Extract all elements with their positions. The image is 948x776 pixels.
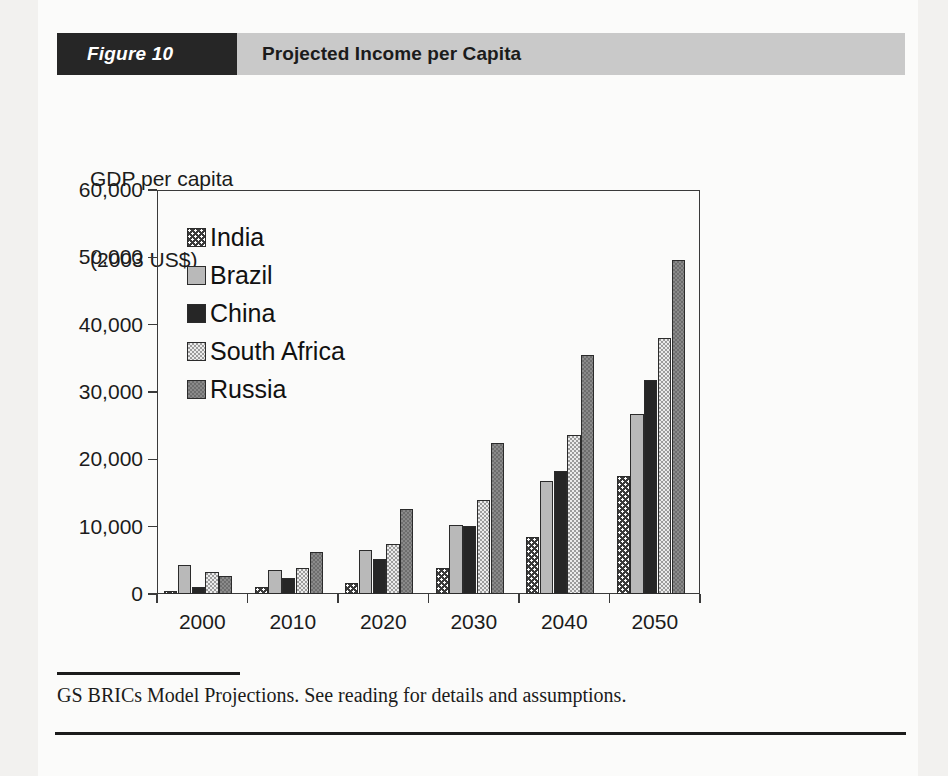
legend-item-southafrica: South Africa bbox=[187, 332, 345, 370]
legend-item-china: China bbox=[187, 294, 345, 332]
x-axis-tick-label: 2020 bbox=[360, 610, 407, 634]
x-axis-tick-mark bbox=[518, 594, 520, 603]
bar-india-2030 bbox=[436, 568, 449, 594]
x-axis-tick-label: 2010 bbox=[269, 610, 316, 634]
bar-brazil-2010 bbox=[268, 570, 281, 594]
bar-southafrica-2020 bbox=[386, 544, 399, 595]
legend-label: South Africa bbox=[210, 339, 345, 364]
legend-item-brazil: Brazil bbox=[187, 256, 345, 294]
y-axis-tick-mark bbox=[148, 189, 157, 191]
bar-russia-2030 bbox=[491, 443, 504, 595]
y-axis-tick-mark bbox=[148, 257, 157, 259]
legend-swatch-china-icon bbox=[187, 304, 206, 323]
legend-swatch-brazil-icon bbox=[187, 266, 206, 285]
bar-india-2040 bbox=[526, 537, 539, 594]
figure-header-band: Figure 10 Projected Income per Capita bbox=[57, 33, 905, 75]
y-axis-tick-mark bbox=[148, 526, 157, 528]
y-axis-tick-label: 20,000 bbox=[79, 447, 143, 471]
source-rule bbox=[57, 672, 240, 675]
x-axis-tick-label: 2050 bbox=[631, 610, 678, 634]
bar-india-2050 bbox=[617, 476, 630, 594]
bar-china-2050 bbox=[644, 380, 657, 594]
legend-label: Brazil bbox=[210, 263, 273, 288]
legend-item-india: India bbox=[187, 218, 345, 256]
bar-southafrica-2000 bbox=[205, 572, 218, 594]
bar-china-2020 bbox=[373, 559, 386, 594]
bar-india-2000 bbox=[164, 591, 177, 594]
bar-russia-2020 bbox=[400, 509, 413, 595]
x-axis-tick-mark bbox=[337, 594, 339, 603]
bar-brazil-2020 bbox=[359, 550, 372, 594]
bar-china-2040 bbox=[554, 471, 567, 594]
bar-china-2010 bbox=[282, 578, 295, 594]
page-background: Figure 10 Projected Income per Capita GD… bbox=[0, 0, 948, 776]
x-axis-tick-mark bbox=[699, 594, 701, 603]
bar-russia-2050 bbox=[672, 260, 685, 594]
source-note: GS BRICs Model Projections. See reading … bbox=[57, 684, 626, 707]
x-axis-tick-label: 2040 bbox=[541, 610, 588, 634]
bar-southafrica-2010 bbox=[296, 568, 309, 594]
figure-number-block: Figure 10 bbox=[57, 33, 237, 75]
bar-southafrica-2040 bbox=[567, 435, 580, 594]
bar-russia-2000 bbox=[219, 576, 232, 594]
y-axis-tick-mark bbox=[148, 459, 157, 461]
y-axis-tick-label: 10,000 bbox=[79, 515, 143, 539]
chart-legend: IndiaBrazilChinaSouth AfricaRussia bbox=[187, 218, 345, 408]
y-axis-tick-label: 50,000 bbox=[79, 245, 143, 269]
legend-label: Russia bbox=[210, 377, 286, 402]
bar-brazil-2050 bbox=[630, 414, 643, 594]
legend-item-russia: Russia bbox=[187, 370, 345, 408]
legend-label: India bbox=[210, 225, 264, 250]
bar-russia-2010 bbox=[310, 552, 323, 594]
bar-china-2030 bbox=[463, 526, 476, 594]
y-axis-tick-label: 0 bbox=[131, 582, 143, 606]
bar-india-2020 bbox=[345, 583, 358, 594]
x-axis-tick-mark bbox=[156, 594, 158, 603]
bar-russia-2040 bbox=[581, 355, 594, 594]
bar-india-2010 bbox=[255, 587, 268, 594]
legend-swatch-india-icon bbox=[187, 228, 206, 247]
legend-label: China bbox=[210, 301, 275, 326]
y-axis-tick-label: 30,000 bbox=[79, 380, 143, 404]
bar-brazil-2000 bbox=[178, 565, 191, 594]
x-axis-tick-mark bbox=[247, 594, 249, 603]
chart-container: GDP per capita (2003 US$) 010,00020,0003… bbox=[57, 95, 905, 655]
bar-china-2000 bbox=[192, 587, 205, 594]
x-axis-tick-mark bbox=[428, 594, 430, 603]
bottom-rule bbox=[55, 732, 906, 735]
bar-southafrica-2050 bbox=[658, 338, 671, 594]
x-axis-tick-label: 2000 bbox=[179, 610, 226, 634]
y-axis-tick-label: 60,000 bbox=[79, 178, 143, 202]
legend-swatch-southafrica-icon bbox=[187, 342, 206, 361]
x-axis-tick-label: 2030 bbox=[450, 610, 497, 634]
x-axis-tick-mark bbox=[609, 594, 611, 603]
figure-title: Projected Income per Capita bbox=[262, 33, 521, 75]
y-axis-tick-mark bbox=[148, 324, 157, 326]
y-axis-tick-mark bbox=[148, 391, 157, 393]
y-axis-tick-label: 40,000 bbox=[79, 313, 143, 337]
bar-southafrica-2030 bbox=[477, 500, 490, 594]
legend-swatch-russia-icon bbox=[187, 380, 206, 399]
bar-brazil-2040 bbox=[540, 481, 553, 594]
figure-number-label: Figure 10 bbox=[57, 43, 173, 65]
bar-brazil-2030 bbox=[449, 525, 462, 594]
